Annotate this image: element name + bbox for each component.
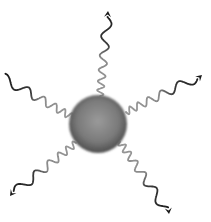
arrowhead-icon bbox=[165, 208, 172, 214]
wave-lower-left bbox=[14, 142, 76, 192]
radiation-diagram bbox=[0, 0, 211, 222]
wave-upper-right bbox=[126, 79, 197, 114]
sphere bbox=[69, 95, 127, 153]
wave-lower-right bbox=[118, 142, 168, 207]
wave-upper-left bbox=[5, 74, 72, 118]
wave-up bbox=[97, 17, 111, 96]
